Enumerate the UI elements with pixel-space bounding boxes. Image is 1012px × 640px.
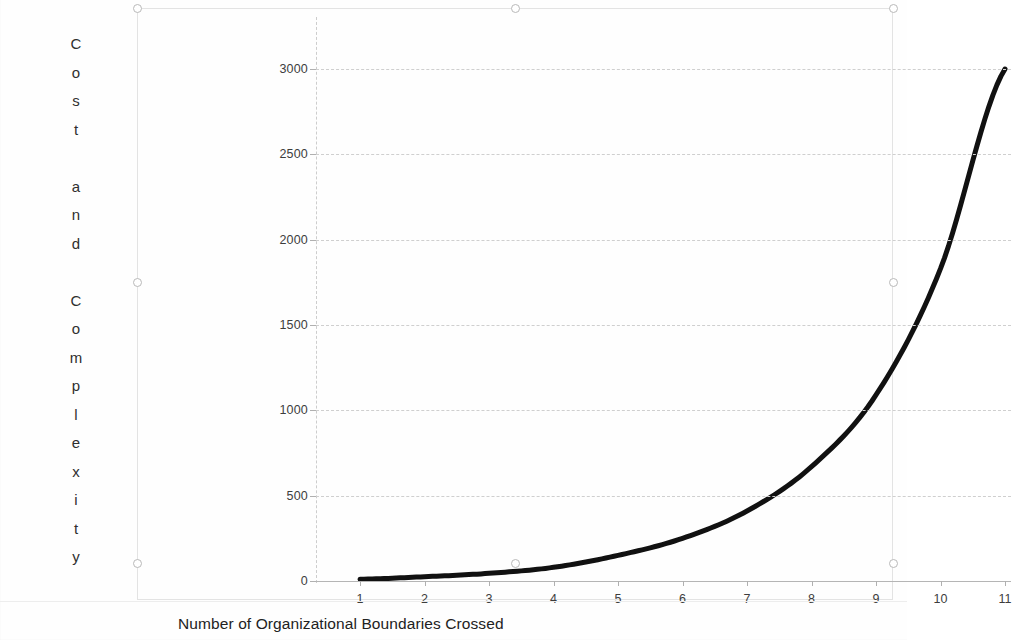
x-axis-tick-label: 4 — [550, 592, 557, 606]
y-axis-tick — [310, 240, 316, 241]
y-gridline — [316, 325, 1011, 326]
y-axis-title-char: s — [72, 87, 80, 116]
y-axis-title-char: d — [72, 230, 80, 259]
x-axis-title: Number of Organizational Boundaries Cros… — [178, 615, 504, 633]
x-axis-tick-label: 3 — [486, 592, 493, 606]
y-axis-title-char: o — [72, 59, 80, 88]
selection-handle-top-middle[interactable] — [511, 4, 520, 13]
plot-area: 0500100015002000250030001234567891011 — [316, 69, 1011, 581]
y-axis-title-char: y — [72, 543, 80, 572]
x-axis-tick — [489, 581, 490, 586]
x-axis-tick — [747, 581, 748, 586]
y-gridline — [316, 496, 1011, 497]
x-axis-tick-label: 10 — [934, 592, 948, 606]
y-axis-tick-label: 2500 — [279, 147, 308, 161]
selection-handle-bottom-left[interactable] — [133, 559, 142, 568]
y-axis-tick — [310, 154, 316, 155]
y-axis-tick — [310, 581, 316, 582]
y-axis-tick — [310, 69, 316, 70]
y-gridline — [316, 410, 1011, 411]
y-axis-tick-label: 2000 — [279, 233, 308, 247]
y-axis-tick-label: 1000 — [279, 403, 308, 417]
y-gridline — [316, 69, 1011, 70]
y-axis-title-char: o — [72, 315, 80, 344]
x-axis-tick-label: 6 — [679, 592, 686, 606]
x-axis-tick — [812, 581, 813, 586]
y-axis-title-space — [74, 144, 78, 173]
y-axis-title-char: i — [74, 486, 77, 515]
y-axis-tick-label: 500 — [287, 489, 308, 503]
y-axis-title-char: m — [70, 344, 83, 373]
x-axis-tick-label: 2 — [421, 592, 428, 606]
y-axis-tick-label: 0 — [301, 574, 308, 588]
y-gridline — [316, 240, 1011, 241]
page-rule — [0, 601, 907, 602]
x-axis-tick — [1005, 581, 1006, 586]
x-axis-tick — [618, 581, 619, 586]
x-axis-tick-label: 8 — [808, 592, 815, 606]
selection-handle-top-right[interactable] — [889, 4, 898, 13]
y-axis-title-char: C — [71, 287, 82, 316]
chart-object[interactable]: 0500100015002000250030001234567891011 — [137, 8, 893, 600]
y-axis-title: Cost and Complexity — [58, 30, 94, 572]
x-axis-tick-label: 5 — [615, 592, 622, 606]
x-axis-tick — [941, 581, 942, 586]
y-axis-tick — [310, 496, 316, 497]
x-axis-tick — [360, 581, 361, 586]
y-axis-tick — [310, 325, 316, 326]
x-axis-tick — [425, 581, 426, 586]
selection-handle-middle-left[interactable] — [133, 278, 142, 287]
y-axis-title-char: e — [72, 429, 80, 458]
selection-handle-bottom-right[interactable] — [889, 559, 898, 568]
x-axis-tick — [876, 581, 877, 586]
x-axis-tick — [554, 581, 555, 586]
y-gridline — [316, 581, 1011, 582]
y-axis-title-char: n — [72, 201, 80, 230]
selection-handle-top-left[interactable] — [133, 4, 142, 13]
y-axis-title-char: t — [74, 515, 78, 544]
y-axis-title-char: C — [71, 30, 82, 59]
x-axis-tick-label: 9 — [873, 592, 880, 606]
y-axis-title-char: x — [72, 458, 80, 487]
y-axis-tick — [310, 410, 316, 411]
selection-handle-bottom-middle[interactable] — [511, 559, 520, 568]
y-gridline — [316, 154, 1011, 155]
y-axis-title-char: t — [74, 116, 78, 145]
selection-handle-middle-right[interactable] — [889, 278, 898, 287]
x-axis-tick-label: 7 — [744, 592, 751, 606]
y-axis-tick-label: 3000 — [279, 62, 308, 76]
x-axis-tick-label: 1 — [357, 592, 364, 606]
y-axis-title-char: a — [72, 173, 80, 202]
y-axis-title-char: l — [74, 401, 77, 430]
x-axis-tick — [683, 581, 684, 586]
y-axis-title-space — [74, 258, 78, 287]
x-axis-tick-label: 11 — [999, 592, 1012, 606]
y-axis-title-char: p — [72, 372, 80, 401]
y-axis-tick-label: 1500 — [279, 318, 308, 332]
